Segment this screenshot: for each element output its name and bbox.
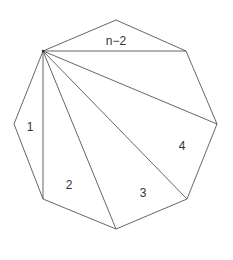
apex-vertex xyxy=(42,50,45,53)
octagon-triangulation-diagram: 1 2 3 4 n−2 xyxy=(0,0,233,260)
diagonal-to-bottom xyxy=(43,51,116,229)
triangle-label-3: 3 xyxy=(140,186,147,200)
triangle-label-2: 2 xyxy=(66,178,73,192)
diagonal-to-lower-right xyxy=(43,51,187,199)
triangle-label-n-minus-2: n−2 xyxy=(106,34,127,48)
triangle-label-1: 1 xyxy=(27,120,34,134)
triangle-label-4: 4 xyxy=(179,139,186,153)
